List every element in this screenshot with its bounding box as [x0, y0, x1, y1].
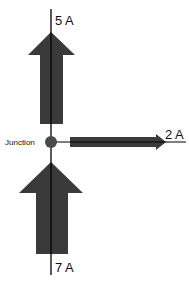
junction-node — [45, 136, 57, 148]
junction-label: Junction — [5, 138, 35, 147]
bottom-current-label: 7 A — [55, 260, 74, 275]
top-current-label: 5 A — [55, 13, 74, 28]
junction-diagram: 5 A 2 A 7 A Junction — [0, 0, 190, 284]
right-current-label: 2 A — [165, 127, 184, 142]
